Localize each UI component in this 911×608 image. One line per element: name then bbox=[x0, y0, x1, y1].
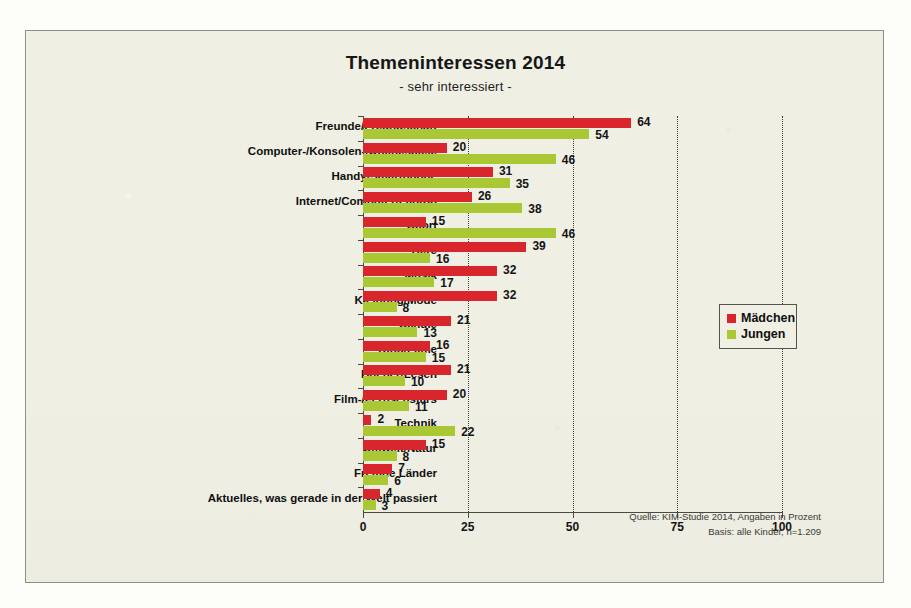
bar-value-maedchen: 21 bbox=[457, 313, 470, 327]
bar-jungen bbox=[363, 475, 388, 485]
legend-swatch-maedchen bbox=[727, 314, 736, 323]
bar-value-maedchen: 16 bbox=[436, 338, 449, 352]
bar-row: Computer-/Konsolen-/Onlinespiele2046 bbox=[363, 141, 782, 166]
bar-maedchen bbox=[363, 217, 426, 227]
y-tick bbox=[358, 438, 363, 439]
y-tick bbox=[358, 240, 363, 241]
bar-jungen bbox=[363, 426, 455, 436]
y-tick bbox=[358, 388, 363, 389]
bar-maedchen bbox=[363, 464, 392, 474]
y-tick bbox=[358, 215, 363, 216]
bar-value-maedchen: 64 bbox=[637, 115, 650, 129]
bar-value-maedchen: 7 bbox=[398, 461, 405, 475]
bar-maedchen bbox=[363, 341, 430, 351]
chart-legend: Mädchen Jungen bbox=[719, 304, 797, 349]
source-line-1: Quelle: KIM-Studie 2014, Angaben in Proz… bbox=[629, 509, 821, 524]
bar-value-maedchen: 15 bbox=[432, 437, 445, 451]
y-tick bbox=[358, 364, 363, 365]
bar-jungen bbox=[363, 327, 417, 337]
chart-subtitle: - sehr interessiert - bbox=[26, 79, 885, 94]
bar-row: Fremde Länder76 bbox=[363, 463, 782, 488]
y-tick bbox=[358, 339, 363, 340]
bar-jungen bbox=[363, 154, 556, 164]
bar-maedchen bbox=[363, 118, 631, 128]
bar-value-maedchen: 26 bbox=[478, 189, 491, 203]
legend-swatch-jungen bbox=[727, 330, 736, 339]
bar-jungen bbox=[363, 376, 405, 386]
bar-jungen bbox=[363, 500, 376, 510]
bar-jungen bbox=[363, 302, 397, 312]
bar-value-maedchen: 39 bbox=[532, 239, 545, 253]
bar-maedchen bbox=[363, 291, 497, 301]
bar-value-maedchen: 4 bbox=[386, 486, 393, 500]
x-tick-25 bbox=[468, 512, 469, 518]
bar-jungen bbox=[363, 401, 409, 411]
bar-jungen bbox=[363, 203, 522, 213]
y-tick bbox=[358, 463, 363, 464]
legend-label-maedchen: Mädchen bbox=[741, 311, 795, 325]
x-tick-label-0: 0 bbox=[360, 520, 367, 534]
bar-value-maedchen: 15 bbox=[432, 214, 445, 228]
bar-value-maedchen: 2 bbox=[377, 412, 384, 426]
legend-label-jungen: Jungen bbox=[741, 327, 785, 341]
y-tick bbox=[358, 265, 363, 266]
chart-sheet: Themeninteressen 2014 - sehr interessier… bbox=[25, 30, 884, 583]
bar-jungen bbox=[363, 129, 589, 139]
x-tick-0 bbox=[363, 512, 364, 518]
bar-maedchen bbox=[363, 316, 451, 326]
y-tick bbox=[358, 141, 363, 142]
bar-jungen bbox=[363, 228, 556, 238]
bar-maedchen bbox=[363, 489, 380, 499]
bar-jungen bbox=[363, 451, 397, 461]
bar-jungen bbox=[363, 352, 426, 362]
bar-maedchen bbox=[363, 390, 447, 400]
legend-item-maedchen: Mädchen bbox=[727, 310, 789, 326]
bar-jungen bbox=[363, 253, 430, 263]
bar-value-maedchen: 21 bbox=[457, 362, 470, 376]
bar-value-maedchen: 32 bbox=[503, 263, 516, 277]
bar-maedchen bbox=[363, 440, 426, 450]
y-tick bbox=[358, 487, 363, 488]
y-tick bbox=[358, 314, 363, 315]
bar-row: Handy/Smartphone3135 bbox=[363, 166, 782, 191]
bar-value-maedchen: 20 bbox=[453, 387, 466, 401]
source-note: Quelle: KIM-Studie 2014, Angaben in Proz… bbox=[629, 509, 821, 539]
bar-row: Internet/Computer/Laptop2638 bbox=[363, 190, 782, 215]
legend-item-jungen: Jungen bbox=[727, 326, 789, 342]
bar-maedchen bbox=[363, 242, 526, 252]
y-tick bbox=[358, 289, 363, 290]
bar-row: Film-/Fernsehstars2011 bbox=[363, 388, 782, 413]
x-tick-50 bbox=[573, 512, 574, 518]
bar-maedchen bbox=[363, 365, 451, 375]
bar-value-maedchen: 31 bbox=[499, 164, 512, 178]
bar-jungen bbox=[363, 178, 510, 188]
x-tick-label-25: 25 bbox=[461, 520, 474, 534]
bar-value-maedchen: 32 bbox=[503, 288, 516, 302]
y-tick bbox=[358, 116, 363, 117]
bar-maedchen bbox=[363, 167, 493, 177]
bar-maedchen bbox=[363, 192, 472, 202]
bar-value-jungen: 3 bbox=[382, 499, 389, 513]
x-tick-label-50: 50 bbox=[566, 520, 579, 534]
source-line-2: Basis: alle Kinder, n=1.209 bbox=[629, 524, 821, 539]
y-tick bbox=[358, 413, 363, 414]
bar-row: Musik3217 bbox=[363, 265, 782, 290]
bar-jungen bbox=[363, 277, 434, 287]
chart-title: Themeninteressen 2014 bbox=[26, 52, 885, 74]
bar-maedchen bbox=[363, 266, 497, 276]
bar-maedchen bbox=[363, 143, 447, 153]
bar-value-maedchen: 20 bbox=[453, 140, 466, 154]
chart-page: Themeninteressen 2014 - sehr interessier… bbox=[0, 0, 911, 608]
bar-row: Freunde/Freundschaft6454 bbox=[363, 116, 782, 141]
bar-row: Umwelt/Natur158 bbox=[363, 438, 782, 463]
y-tick bbox=[358, 166, 363, 167]
bar-row: Technik222 bbox=[363, 413, 782, 438]
y-tick bbox=[358, 190, 363, 191]
bar-maedchen bbox=[363, 415, 371, 425]
bar-row: Tiere3916 bbox=[363, 240, 782, 265]
bar-row: Bücher/Lesen2110 bbox=[363, 364, 782, 389]
bar-row: Sport1546 bbox=[363, 215, 782, 240]
